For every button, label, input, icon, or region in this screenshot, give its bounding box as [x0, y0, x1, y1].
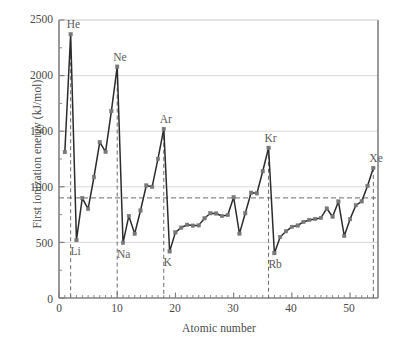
ionization-energy-chart: First ionization energy (kJ/mol) Atomic … — [0, 0, 405, 345]
point-label-xe: Xe — [369, 153, 382, 165]
point-label-rb: Rb — [268, 259, 281, 271]
point-label-ne: Ne — [113, 52, 126, 64]
point-label-li: Li — [70, 246, 80, 258]
data-series-line — [65, 34, 374, 253]
point-label-he: He — [67, 19, 80, 31]
plot-canvas — [0, 0, 405, 345]
gridlines — [59, 20, 378, 242]
axis-lines — [59, 20, 378, 298]
data-point-markers — [63, 33, 375, 255]
point-label-na: Na — [117, 249, 130, 261]
point-label-k: K — [164, 257, 172, 269]
y-axis-ticks — [59, 20, 65, 298]
point-label-ar: Ar — [160, 114, 172, 126]
x-axis-ticks — [59, 293, 373, 299]
point-label-kr: Kr — [265, 133, 277, 145]
